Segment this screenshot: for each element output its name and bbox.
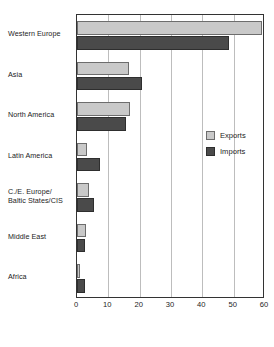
- legend-swatch-exports-icon: [206, 131, 215, 140]
- x-tick-label: 20: [134, 300, 142, 309]
- bar-imports-africa: [77, 279, 85, 293]
- category-label-line: Latin America: [8, 152, 68, 161]
- gridline: [171, 15, 172, 297]
- category-label: Africa: [0, 273, 68, 282]
- x-axis-tick-labels: 0102030405060: [76, 300, 264, 320]
- x-tick-label: 40: [197, 300, 205, 309]
- bar-exports-latin-america: [77, 143, 87, 157]
- gridline: [202, 15, 203, 297]
- category-axis-labels: Western EuropeAsiaNorth AmericaLatin Ame…: [0, 14, 72, 298]
- x-tick-label: 60: [260, 300, 268, 309]
- bar-imports-middle-east: [77, 239, 85, 253]
- legend-label: Exports: [220, 131, 246, 140]
- category-label: C./E. Europe/Baltic States/CIS: [0, 188, 68, 205]
- category-label-line: Western Europe: [8, 30, 68, 39]
- x-tick-label: 10: [103, 300, 111, 309]
- legend-item-exports[interactable]: Exports: [206, 130, 264, 141]
- category-label-line: Asia: [8, 71, 68, 80]
- horizontal-bar-chart: Western EuropeAsiaNorth AmericaLatin Ame…: [0, 0, 274, 347]
- category-label-line: Middle East: [8, 233, 68, 242]
- category-label-line: North America: [8, 111, 68, 120]
- bar-imports-c-e-europe-baltic-states-cis: [77, 198, 94, 212]
- category-label: Asia: [0, 71, 68, 80]
- category-label: North America: [0, 111, 68, 120]
- bar-imports-asia: [77, 77, 142, 91]
- x-tick-label: 50: [228, 300, 236, 309]
- bar-imports-latin-america: [77, 158, 100, 172]
- bar-exports-africa: [77, 264, 80, 278]
- bar-exports-western-europe: [77, 21, 262, 35]
- x-tick-label: 30: [166, 300, 174, 309]
- category-label: Middle East: [0, 233, 68, 242]
- gridline: [140, 15, 141, 297]
- category-label-line: Baltic States/CIS: [8, 197, 68, 206]
- category-label: Western Europe: [0, 30, 68, 39]
- bar-exports-north-america: [77, 102, 130, 116]
- bar-exports-asia: [77, 62, 129, 76]
- bar-imports-north-america: [77, 117, 126, 131]
- bar-exports-middle-east: [77, 224, 86, 238]
- legend-swatch-imports-icon: [206, 147, 215, 156]
- bar-imports-western-europe: [77, 36, 229, 50]
- x-tick-label: 0: [74, 300, 78, 309]
- legend-label: Imports: [220, 147, 245, 156]
- legend-item-imports[interactable]: Imports: [206, 146, 264, 157]
- category-label-line: Africa: [8, 273, 68, 282]
- gridline: [108, 15, 109, 297]
- chart-legend: ExportsImports: [206, 130, 264, 162]
- bar-exports-c-e-europe-baltic-states-cis: [77, 183, 89, 197]
- category-label: Latin America: [0, 152, 68, 161]
